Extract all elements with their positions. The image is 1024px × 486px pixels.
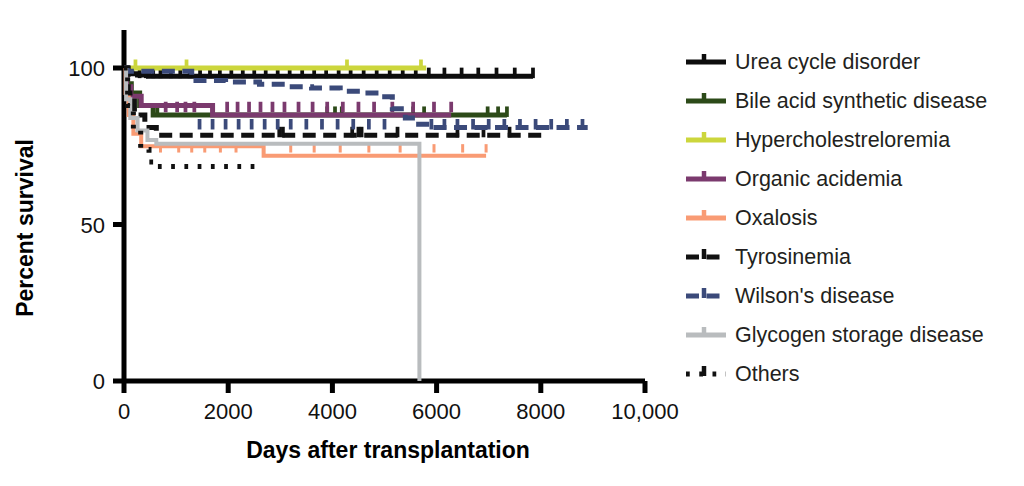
survival-chart-figure: 0200040006000800010,000 050100 Days afte…: [0, 0, 1024, 486]
x-tick-label: 0: [118, 399, 130, 424]
legend-label: Others: [735, 362, 800, 386]
legend-item-3[interactable]: Hypercholestreloremia: [686, 128, 950, 152]
legend-label: Wilson's disease: [735, 284, 894, 308]
axes-group: [113, 30, 645, 393]
y-axis-title: Percent survival: [12, 139, 38, 317]
series-3: [124, 60, 426, 71]
series-curves: [124, 60, 588, 382]
legend-item-6[interactable]: Tyrosinemia: [686, 245, 851, 269]
legend-label: Hypercholestreloremia: [735, 128, 950, 152]
legend: Urea cycle disorderBile acid synthetic d…: [686, 50, 987, 386]
y-tick-label: 100: [68, 56, 105, 81]
y-tick-label: 0: [93, 369, 105, 394]
legend-label: Bile acid synthetic disease: [735, 89, 987, 113]
y-tick-label: 50: [81, 213, 105, 238]
x-tick-label: 10,000: [611, 399, 678, 424]
legend-item-7[interactable]: Wilson's disease: [686, 284, 894, 308]
legend-item-2[interactable]: Bile acid synthetic disease: [686, 89, 987, 113]
legend-item-5[interactable]: Oxalosis: [686, 206, 817, 230]
x-tick-label: 8000: [516, 399, 565, 424]
x-tick-label: 6000: [412, 399, 461, 424]
x-axis-title: Days after transplantation: [246, 437, 530, 463]
x-tick-label: 4000: [308, 399, 357, 424]
y-tick-labels: 050100: [68, 56, 105, 394]
legend-item-4[interactable]: Organic acidemia: [686, 167, 902, 191]
legend-label: Oxalosis: [735, 206, 817, 230]
legend-label: Organic acidemia: [735, 167, 902, 191]
legend-label: Urea cycle disorder: [735, 50, 920, 74]
legend-item-1[interactable]: Urea cycle disorder: [686, 50, 920, 74]
x-tick-labels: 0200040006000800010,000: [118, 399, 679, 424]
legend-item-8[interactable]: Glycogen storage disease: [686, 323, 984, 347]
legend-label: Glycogen storage disease: [735, 323, 984, 347]
legend-label: Tyrosinemia: [735, 245, 851, 269]
legend-item-9[interactable]: Others: [686, 362, 800, 386]
kaplan-meier-plot: 0200040006000800010,000 050100 Days afte…: [0, 0, 1024, 486]
x-tick-label: 2000: [204, 399, 253, 424]
